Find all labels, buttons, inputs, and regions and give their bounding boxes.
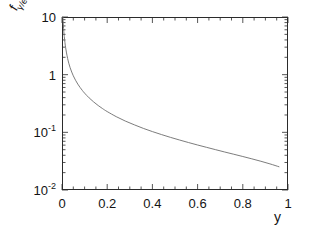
x-axis-tick-label: 0 (58, 197, 65, 210)
figure-plot-photon-flux: 10110-110-2 00.20.40.60.81 fγ/e y (0, 0, 311, 245)
y-tick-mantissa: 10 (34, 125, 48, 140)
y-tick-exponent: -1 (48, 124, 56, 134)
x-axis-tick-label: 0.2 (98, 197, 116, 210)
y-axis-tick-label: 10-1 (34, 126, 56, 139)
x-axis-tick-label: 0.4 (143, 197, 161, 210)
y-axis-tick-label: 10-2 (34, 184, 56, 197)
y-tick-mantissa: 10 (42, 10, 56, 25)
y-axis-tick-label: 1 (49, 68, 56, 81)
x-axis-tick-label: 0.8 (234, 197, 252, 210)
y-tick-mantissa: 10 (34, 183, 48, 198)
y-tick-exponent: -2 (48, 181, 56, 191)
y-axis-tick-label: 10 (42, 11, 56, 24)
y-tick-mantissa: 1 (49, 67, 56, 82)
x-axis-title: y (274, 210, 281, 224)
x-axis-tick-label: 0.6 (189, 197, 207, 210)
x-axis-tick-label: 1 (284, 197, 291, 210)
data-curve-photon-flux (63, 17, 279, 167)
